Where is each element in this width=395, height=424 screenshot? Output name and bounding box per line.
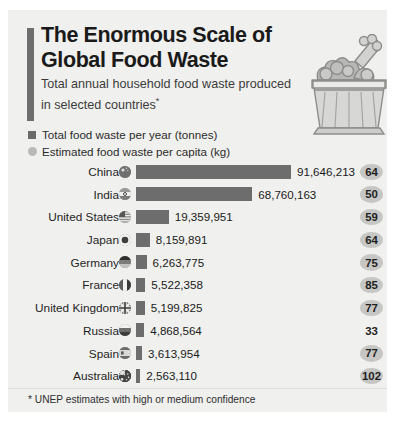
total-waste-value: 6,263,775: [153, 256, 205, 269]
flag-united-states-icon: [119, 211, 131, 223]
total-waste-bar: [136, 210, 169, 224]
total-waste-bar: [136, 369, 140, 383]
food-waste-bar-chart: China91,646,21364India68,760,16350United…: [8, 162, 387, 389]
flag-japan-icon: [119, 234, 131, 246]
flag-france-icon: [119, 279, 131, 291]
total-waste-bar: [136, 323, 144, 337]
per-capita-badge: 64: [360, 232, 383, 249]
title-accent-bar: [27, 28, 34, 121]
subtitle-footnote-marker: *: [156, 96, 160, 106]
trash-bin-icon: [310, 34, 387, 138]
country-label: United Kingdom: [35, 301, 119, 315]
per-capita-badge: 64: [360, 164, 383, 181]
per-capita-badge: 77: [360, 345, 383, 362]
country-label: Germany: [70, 256, 119, 270]
total-waste-bar: [136, 255, 147, 269]
country-label: Japan: [87, 233, 119, 247]
legend-item-per-capita: Estimated food waste per capita (kg): [28, 144, 328, 159]
country-label: India: [93, 188, 119, 202]
country-label: China: [88, 165, 119, 179]
flag-australia-icon: [119, 370, 131, 382]
chart-row: Germany6,263,77575: [8, 253, 387, 276]
legend-square-icon: [28, 131, 36, 139]
country-label: United States: [48, 210, 119, 224]
country-label: France: [82, 278, 119, 292]
page-subtitle: Total annual household food waste produc…: [41, 76, 303, 113]
flag-spain-icon: [119, 347, 131, 359]
per-capita-badge: 33: [360, 322, 383, 339]
flag-india-icon: [119, 188, 131, 200]
chart-row: France5,522,35885: [8, 275, 387, 298]
chart-row: Japan8,159,89164: [8, 230, 387, 253]
legend-item-total: Total food waste per year (tonnes): [28, 127, 328, 142]
chart-row: United Kingdom5,199,82577: [8, 298, 387, 321]
total-waste-value: 68,760,163: [258, 188, 316, 201]
country-label: Russia: [83, 324, 119, 338]
total-waste-value: 2,563,110: [146, 369, 197, 382]
title-line-2: Global Food Waste: [41, 48, 228, 72]
per-capita-badge: 59: [360, 209, 383, 226]
footnote-text: * UNEP estimates with high or medium con…: [28, 394, 255, 405]
total-waste-value: 5,522,358: [151, 278, 203, 291]
footnote-divider: [8, 388, 387, 389]
title-line-1: The Enormous Scale of: [41, 23, 272, 47]
total-waste-bar: [136, 301, 145, 315]
flag-russia-icon: [119, 324, 131, 336]
total-waste-value: 91,646,213: [297, 165, 355, 178]
per-capita-badge: 77: [360, 300, 383, 317]
per-capita-badge: 102: [360, 368, 383, 385]
total-waste-bar: [136, 187, 252, 201]
chart-row: China91,646,21364: [8, 162, 387, 185]
total-waste-bar: [136, 165, 291, 179]
total-waste-value: 4,868,564: [150, 324, 202, 337]
per-capita-badge: 50: [360, 186, 383, 203]
per-capita-badge: 75: [360, 254, 383, 271]
chart-row: United States19,359,95159: [8, 207, 387, 230]
chart-legend: Total food waste per year (tonnes) Estim…: [28, 127, 328, 161]
flag-germany-icon: [119, 256, 131, 268]
total-waste-bar: [136, 233, 150, 247]
total-waste-value: 19,359,951: [175, 210, 233, 223]
chart-row: Australia2,563,110102: [8, 366, 387, 389]
legend-circle-icon: [28, 147, 37, 156]
total-waste-bar: [136, 278, 145, 292]
chart-row: India68,760,16350: [8, 185, 387, 208]
legend-label-total: Total food waste per year (tonnes): [42, 128, 217, 141]
page-title: The Enormous Scale of Global Food Waste: [41, 23, 291, 73]
total-waste-value: 3,613,954: [148, 347, 200, 360]
chart-row: Russia4,868,56433: [8, 321, 387, 344]
infographic-card: The Enormous Scale of Global Food Waste …: [8, 10, 387, 412]
legend-label-per-capita: Estimated food waste per capita (kg): [42, 145, 230, 158]
flag-china-icon: [119, 166, 131, 178]
flag-united-kingdom-icon: [119, 302, 131, 314]
per-capita-badge: 85: [360, 277, 383, 294]
subtitle-text: Total annual household food waste produc…: [41, 77, 291, 112]
total-waste-bar: [136, 346, 142, 360]
country-label: Australia: [73, 369, 119, 383]
total-waste-value: 5,199,825: [151, 301, 203, 314]
country-label: Spain: [89, 347, 119, 361]
chart-row: Spain3,613,95477: [8, 344, 387, 367]
total-waste-value: 8,159,891: [156, 233, 208, 246]
